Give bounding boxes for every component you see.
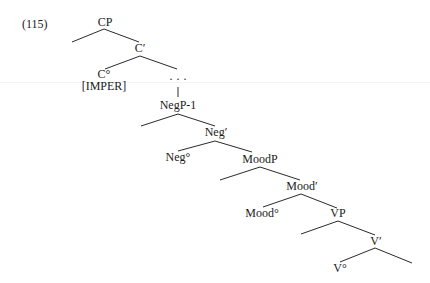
tree-node-c-bar: C′ [135,42,146,55]
tree-node-neg-head: Neg° [166,151,191,164]
tree-node-negp-1: NegP-1 [160,99,197,112]
tree-node-mood-head: Mood° [245,207,278,220]
tree-node-vp: VP [330,207,345,220]
tree-node-moodp: MoodP [242,153,277,166]
tree-branch [375,248,412,263]
tree-branches [0,0,430,283]
tree-node-ellipsis: · · · [169,73,187,86]
tree-node-mood-bar: Mood′ [286,180,317,193]
tree-node-v-head: V° [333,262,346,275]
tree-node-neg-bar: Neg′ [205,126,228,139]
tree-branch [140,56,177,69]
tree-branch [301,221,338,234]
tree-branch [220,167,260,180]
tree-branch [72,29,104,42]
tree-branch [215,141,252,152]
tree-node-v-bar: V′ [370,235,381,248]
tree-node-cp: CP [98,16,113,29]
syntax-tree-diagram: (115) CPC′C°[IMPER]· · ·NegP-1Neg′Neg°Mo… [0,0,430,283]
tree-node-imper: [IMPER] [82,80,127,93]
tree-branch [141,114,178,126]
